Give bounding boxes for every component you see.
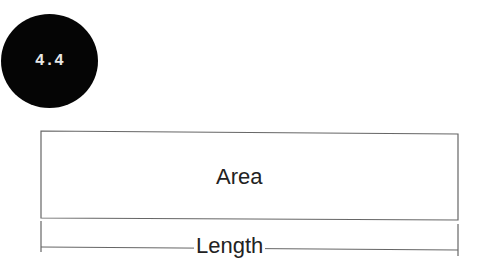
area-label: Area [216,164,262,190]
length-label: Length [194,233,265,259]
